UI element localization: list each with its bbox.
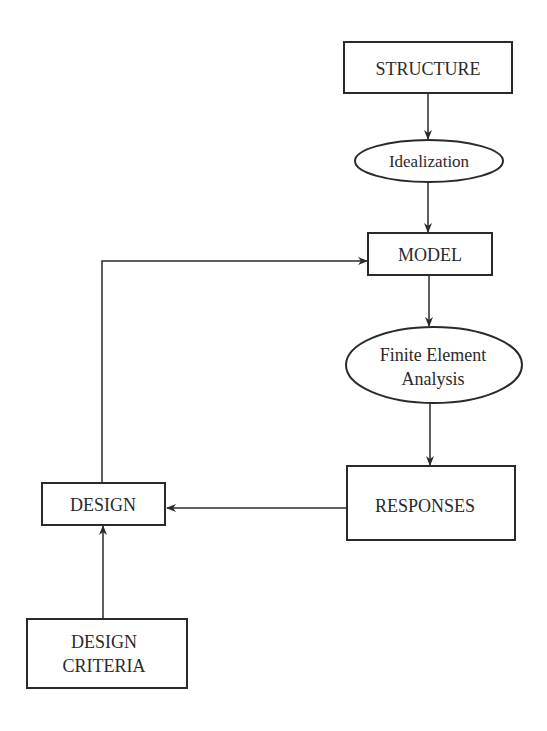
node-design-criteria: DESIGN CRITERIA bbox=[27, 619, 187, 688]
node-design-criteria-line2: CRITERIA bbox=[63, 656, 146, 676]
node-responses-label: RESPONSES bbox=[375, 496, 475, 516]
node-model-label: MODEL bbox=[398, 245, 462, 265]
node-design: DESIGN bbox=[42, 483, 165, 525]
node-design-criteria-line1: DESIGN bbox=[71, 632, 137, 652]
node-fea-label-line1: Finite Element bbox=[380, 345, 486, 365]
node-fea-label-line2: Analysis bbox=[402, 369, 465, 389]
flowchart: STRUCTURE Idealization MODEL Finite Elem… bbox=[0, 0, 547, 731]
node-model: MODEL bbox=[368, 233, 492, 275]
node-structure-label: STRUCTURE bbox=[375, 59, 480, 79]
node-idealization-label: Idealization bbox=[389, 152, 470, 171]
node-structure: STRUCTURE bbox=[344, 42, 512, 93]
node-responses: RESPONSES bbox=[347, 466, 515, 540]
edge-design-to-model bbox=[102, 261, 367, 483]
node-idealization: Idealization bbox=[355, 140, 503, 182]
node-design-label: DESIGN bbox=[70, 495, 136, 515]
node-fea: Finite Element Analysis bbox=[346, 327, 522, 403]
